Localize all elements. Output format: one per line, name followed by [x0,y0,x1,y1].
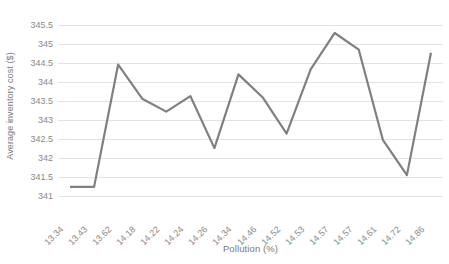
y-axis-tick-label: 342 [38,154,53,163]
plot-area [58,0,443,212]
y-axis-tick-label: 343.5 [30,97,53,106]
y-axis-tick-label: 342.5 [30,135,53,144]
series-line [58,0,443,212]
y-axis-tick-label: 344.5 [30,59,53,68]
y-axis-tick-label: 345 [38,40,53,49]
y-axis-tick-labels: 345.5345344.5344343.5343342.5342341.5341 [20,0,56,212]
series-polyline [70,33,431,187]
y-axis-tick-label: 344 [38,78,53,87]
y-axis-title: Average inventory cost ($) [0,0,20,212]
line-chart: Average inventory cost ($) 345.5345344.5… [0,0,449,264]
y-axis-tick-label: 345.5 [30,21,53,30]
y-axis-title-label: Average inventory cost ($) [5,52,15,159]
y-axis-tick-label: 341.5 [30,173,53,182]
x-axis-title: Pollution (%) [58,243,443,254]
y-axis-tick-label: 341 [38,192,53,201]
y-axis-tick-label: 343 [38,116,53,125]
